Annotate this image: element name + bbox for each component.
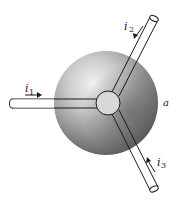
- svg-text:2: 2: [129, 25, 134, 34]
- svg-text:i: i: [124, 20, 128, 33]
- svg-text:i: i: [25, 82, 29, 95]
- arrow-up-left-icon: [146, 157, 155, 172]
- sphere-wires-diagram: i 1 i 2 i 3 a: [0, 0, 178, 203]
- svg-text:i: i: [157, 156, 161, 169]
- sphere-label: a: [163, 97, 169, 108]
- svg-text:3: 3: [161, 161, 166, 170]
- current-i1-label: i 1: [25, 82, 42, 98]
- junction: [96, 91, 120, 115]
- svg-text:1: 1: [29, 88, 34, 97]
